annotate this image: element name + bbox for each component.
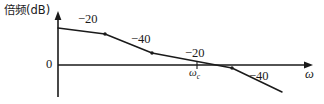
x-axis bbox=[58, 62, 313, 69]
zero-level-label: 0 bbox=[46, 58, 52, 71]
crossover-subscript: c bbox=[197, 72, 200, 81]
breakpoint-dot bbox=[230, 66, 233, 69]
crossover-frequency-label: ωc bbox=[189, 67, 200, 81]
slope-label-4: −40 bbox=[249, 70, 269, 83]
x-axis-label: ω bbox=[305, 68, 314, 81]
breakpoint-dot bbox=[150, 51, 153, 54]
slope-label-3: −20 bbox=[185, 47, 205, 60]
breakpoint-dot bbox=[103, 32, 106, 35]
y-axis-label: 倍频(dB) bbox=[4, 5, 50, 17]
bode-plot-figure: 倍频(dB) 0 ω −20 −40 −20 −40 ωc bbox=[0, 0, 324, 104]
slope-label-1: −20 bbox=[78, 13, 98, 26]
y-axis bbox=[55, 11, 62, 97]
crossover-omega: ω bbox=[189, 66, 197, 78]
slope-label-2: −40 bbox=[131, 33, 151, 46]
